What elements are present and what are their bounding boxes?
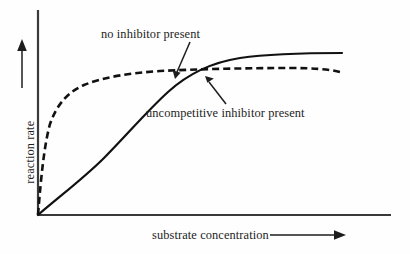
enzyme-kinetics-figure: no inhibitor present uncompetitive inhib… [0,0,410,254]
x-axis-label: substrate concentration [152,229,269,241]
curve-uncompetitive-inhibitor [38,68,340,215]
y-axis-label: reaction rate [24,104,36,200]
curve-no-inhibitor [38,53,342,215]
annotation-label-no-inhibitor: no inhibitor present [101,28,200,40]
pointer-arrow-down-left-icon [173,42,190,79]
arrow-right-icon [270,230,346,240]
plot-canvas [0,0,410,254]
arrow-up-icon [17,39,27,88]
pointer-arrow-up-left-icon [205,76,226,104]
annotation-label-uncompetitive-inhibitor: uncompetitive inhibitor present [146,107,305,119]
